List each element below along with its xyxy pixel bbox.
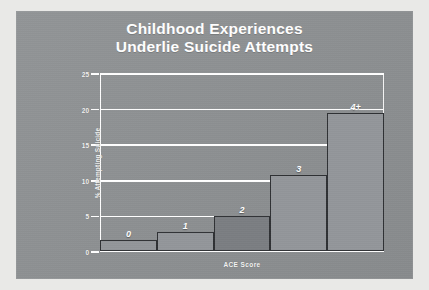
bar-4+ <box>327 113 384 251</box>
y-tick-label-0: 0 <box>85 249 89 256</box>
bar-0 <box>100 240 157 251</box>
bar-2 <box>214 216 271 251</box>
y-axis-title: % Attempting Suicide <box>94 128 101 199</box>
x-axis-title: ACE Score <box>100 261 384 268</box>
y-tick-25 <box>91 73 99 75</box>
bar-label-2: 2 <box>239 205 244 215</box>
bar-3 <box>270 175 327 251</box>
y-tick-label-25: 25 <box>82 71 89 78</box>
y-tick-label-5: 5 <box>85 213 89 220</box>
bar-label-3: 3 <box>296 164 301 174</box>
chart-title: Childhood Experiences Underlie Suicide A… <box>16 20 413 55</box>
bar-label-0: 0 <box>126 229 131 239</box>
y-tick-20 <box>91 109 99 111</box>
bar-label-4+: 4+ <box>350 102 360 112</box>
chart-title-line-1: Childhood Experiences <box>126 20 302 37</box>
gridline-25 <box>100 73 384 75</box>
y-tick-label-10: 10 <box>82 177 89 184</box>
y-tick-0 <box>91 251 99 253</box>
gridline-20 <box>100 109 384 111</box>
bar-1 <box>157 232 214 251</box>
y-tick-5 <box>91 216 99 218</box>
bar-label-1: 1 <box>183 221 188 231</box>
slide-canvas: Childhood Experiences Underlie Suicide A… <box>16 11 413 279</box>
plot-area: 0510152025 01234+ % Attempting Suicide A… <box>100 74 384 252</box>
y-tick-label-20: 20 <box>82 106 89 113</box>
y-tick-label-15: 15 <box>82 142 89 149</box>
chart-title-line-2: Underlie Suicide Attempts <box>16 38 413 56</box>
